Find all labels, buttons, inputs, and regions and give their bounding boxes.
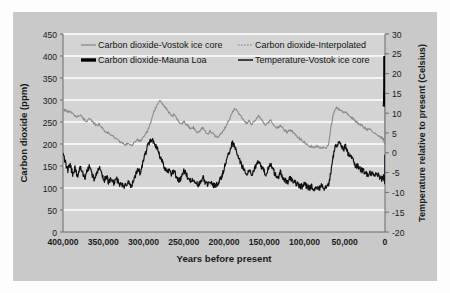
- x-axis-title: Years before present: [177, 253, 273, 264]
- figure-container: 050100150200250300350400450-20-15-10-505…: [0, 0, 450, 293]
- y-axis-right-tick-label: 25: [392, 49, 402, 59]
- series-line-co2-mauna-loa: [384, 56, 385, 107]
- y-axis-left-tick-label: 250: [43, 118, 58, 128]
- legend-item-label: Carbon dioxide-Vostok ice core: [98, 40, 223, 50]
- y-axis-right-ticks: -20-15-10-5051015202530: [385, 30, 405, 238]
- y-axis-right-tick-label: -5: [392, 168, 400, 178]
- x-axis-tick-label: 150,000: [249, 237, 280, 247]
- y-axis-left-tick-label: 150: [43, 162, 58, 172]
- legend-item-label: Carbon dioxide-Mauna Loa: [98, 55, 207, 65]
- y-axis-left-tick-label: 300: [43, 96, 58, 106]
- y-axis-right-tick-label: -15: [392, 208, 405, 218]
- y-axis-left-tick-label: 350: [43, 74, 58, 84]
- x-axis-tick-label: 400,000: [47, 237, 78, 247]
- x-axis-tick-label: 100,000: [289, 237, 320, 247]
- x-axis-ticks: 400,000350,000300,000250,000200,000150,0…: [47, 237, 387, 247]
- x-axis-tick-label: 0: [383, 237, 388, 247]
- y-axis-right-tick-label: 0: [392, 148, 397, 158]
- y-axis-left-ticks: 050100150200250300350400450: [43, 30, 63, 238]
- y-axis-left-tick-label: 50: [47, 206, 57, 216]
- y-axis-right-tick-label: 5: [392, 129, 397, 139]
- y-axis-right-tick-label: 10: [392, 109, 402, 119]
- y-axis-right-title: Temperature relative to present (Celsius…: [417, 44, 427, 222]
- x-axis-tick-label: 350,000: [88, 237, 119, 247]
- climate-chart: 050100150200250300350400450-20-15-10-505…: [13, 12, 437, 281]
- x-axis-tick-label: 250,000: [168, 237, 199, 247]
- y-axis-left-tick-label: 100: [43, 184, 58, 194]
- y-axis-right-tick-label: 15: [392, 89, 402, 99]
- y-axis-left-tick-label: 450: [43, 30, 58, 40]
- chart-card: 050100150200250300350400450-20-15-10-505…: [13, 12, 437, 281]
- y-axis-right-tick-label: -20: [392, 228, 405, 238]
- y-axis-right-tick-label: -10: [392, 188, 405, 198]
- x-axis-tick-label: 50,000: [332, 237, 359, 247]
- y-axis-left-tick-label: 400: [43, 52, 58, 62]
- y-axis-right-tick-label: 30: [392, 30, 402, 40]
- y-axis-left-title: Carbon dioxide (ppm): [18, 83, 29, 182]
- y-axis-right-tick-label: 20: [392, 69, 402, 79]
- x-axis-tick-label: 200,000: [208, 237, 239, 247]
- legend-item-label: Carbon dioxide-Interpolated: [255, 40, 366, 50]
- y-axis-left-tick-label: 200: [43, 140, 58, 150]
- legend-item-label: Temperature-Vostok ice core: [255, 55, 370, 65]
- x-axis-tick-label: 300,000: [128, 237, 159, 247]
